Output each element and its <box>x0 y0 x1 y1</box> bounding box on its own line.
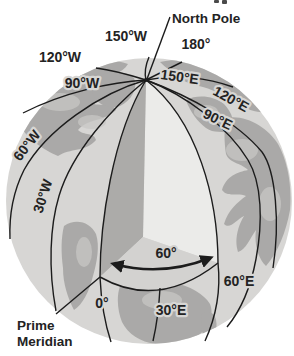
north-pole-label: North Pole <box>172 11 241 26</box>
meridian-150w-label: 150°W <box>105 28 148 44</box>
cropped-artifact <box>214 0 227 4</box>
prime-meridian-label-line1: Prime <box>17 318 55 333</box>
meridian-60e-label: 60°E <box>224 273 255 289</box>
angle-60-label: 60° <box>155 245 176 261</box>
meridian-90w-label: 90°W <box>65 75 100 91</box>
meridian-30e-label: 30°E <box>156 302 187 318</box>
meridian-0-label: 0° <box>95 295 108 311</box>
prime-meridian-label-line2: Meridian <box>17 334 73 349</box>
globe-figure: North Pole 150°W 180° 120°W 90°W 150°E 1… <box>0 0 294 356</box>
meridian-120w-label: 120°W <box>39 49 82 65</box>
meridian-180-label: 180° <box>182 36 211 52</box>
